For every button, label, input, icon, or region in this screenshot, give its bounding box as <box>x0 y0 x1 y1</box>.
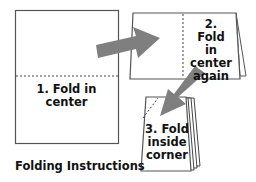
step-2-line: in <box>190 44 232 57</box>
diagram-caption: Folding Instructions <box>15 159 145 173</box>
step-1-label: 1. Fold in center <box>15 83 118 109</box>
step-2-line: 2. Fold <box>190 18 232 44</box>
step-2-label: 2. Fold in center again <box>190 18 232 82</box>
step-3-line: corner <box>144 149 190 162</box>
step-3-label: 3. Fold inside corner <box>144 123 190 162</box>
step-2-line: center <box>190 57 232 70</box>
step-1-sheet <box>16 11 119 144</box>
step-3-line: 3. Fold <box>144 123 190 136</box>
step-2-line: again <box>190 70 232 83</box>
step-3-line: inside <box>144 136 190 149</box>
